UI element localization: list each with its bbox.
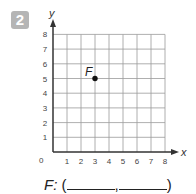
x-tick-label: 1 [65,157,70,166]
y-tick-label: 4 [43,89,48,98]
y-tick-label: 7 [43,45,48,54]
close-paren: ) [167,176,172,193]
answer-line: F: (,) [44,176,172,193]
x-tick-label: 3 [93,157,98,166]
x-axis-arrow-icon [171,149,179,155]
x-tick-label: 6 [135,157,140,166]
y-tick-label: 3 [43,104,48,113]
y-tick-label: 1 [43,133,48,142]
x-axis-label: x [180,146,187,158]
answer-label: F: [44,176,57,193]
origin-label: 0 [39,156,44,165]
y-answer-blank[interactable] [119,177,167,190]
coordinate-grid: xy12345678123456780F [0,0,196,194]
y-tick-label: 6 [43,60,48,69]
x-tick-label: 2 [79,157,84,166]
data-point [92,76,97,81]
y-tick-label: 5 [43,75,48,84]
x-tick-label: 5 [121,157,126,166]
y-axis-label: y [48,7,56,19]
point-label: F [85,65,93,79]
x-answer-blank[interactable] [67,177,115,190]
x-tick-label: 4 [107,157,112,166]
y-tick-label: 8 [43,30,48,39]
x-tick-label: 7 [149,157,154,166]
y-axis-arrow-icon [50,19,56,27]
x-tick-label: 8 [163,157,168,166]
y-tick-label: 2 [43,119,48,128]
